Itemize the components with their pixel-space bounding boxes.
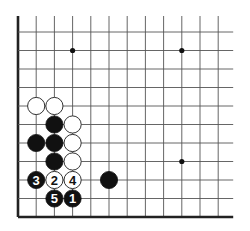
stone-disc [46,153,63,170]
stone-disc [46,134,63,151]
black-stone: 1 [64,190,81,207]
black-stone [46,134,63,151]
move-number: 1 [69,191,76,206]
stone-disc [28,134,45,151]
black-stone [46,116,63,133]
white-stone [28,97,45,114]
black-stone: 5 [46,190,63,207]
move-number: 5 [51,191,58,206]
stone-disc [64,116,81,133]
move-number: 3 [33,173,40,188]
black-stone [28,134,45,151]
stone-disc [28,97,45,114]
black-stone [46,153,63,170]
black-stone [100,171,117,188]
white-stone [64,134,81,151]
white-stone [46,97,63,114]
white-stone: 4 [64,171,81,188]
stone-disc [100,171,117,188]
stone-disc [64,153,81,170]
move-number: 2 [51,173,58,188]
stone-disc [46,97,63,114]
white-stone: 2 [46,171,63,188]
star-point [70,48,75,53]
stone-disc [46,116,63,133]
black-stone: 3 [28,171,45,188]
move-number: 4 [69,173,77,188]
go-board: 32451 [0,0,250,231]
white-stone [64,116,81,133]
star-point [179,159,184,164]
star-point [179,48,184,53]
stone-disc [64,134,81,151]
white-stone [64,153,81,170]
